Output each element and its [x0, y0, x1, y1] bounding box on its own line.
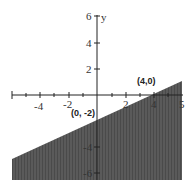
- x-tick-5: 5: [179, 98, 185, 110]
- x-tick-neg4: -4: [34, 100, 44, 112]
- y-tick-6: 6: [86, 10, 92, 22]
- y-axis-label: y: [101, 11, 107, 23]
- y-tick-4: 4: [86, 37, 92, 49]
- point-label-0-neg2: (0, -2): [71, 108, 95, 118]
- x-tick-4: 4: [151, 98, 157, 110]
- y-tick-2: 2: [86, 63, 92, 75]
- inequality-graph: y 6 4 2 -4 -6 -4 -2 2 4 5 (4,0) (0, -2): [0, 0, 195, 187]
- y-tick-neg4: -4: [83, 141, 93, 153]
- point-label-4-0: (4,0): [137, 76, 156, 86]
- y-tick-neg6: -6: [83, 167, 93, 179]
- x-tick-2: 2: [123, 98, 129, 110]
